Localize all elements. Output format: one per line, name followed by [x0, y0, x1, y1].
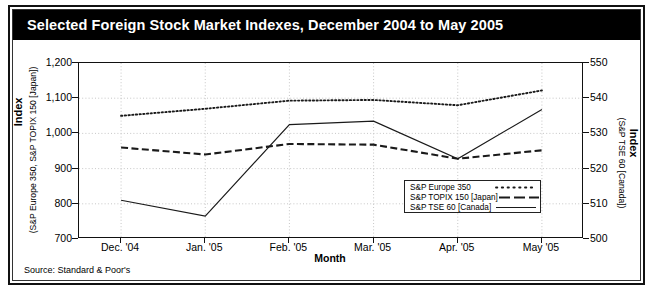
legend-item-label: S&P Europe 350	[410, 183, 495, 192]
legend-item-line-swatch	[495, 183, 536, 192]
legend-item: S&P TOPIX 150 [Japan]	[410, 193, 536, 202]
y-axis-right-tick-label: 510	[590, 197, 608, 209]
chart-legend: S&P Europe 350S&P TOPIX 150 [Japan]S&P T…	[404, 180, 541, 213]
chart-figure: Selected Foreign Stock Market Indexes, D…	[0, 0, 653, 291]
y-axis-right-title: Index	[628, 129, 640, 158]
y-axis-left-tick-mark	[72, 238, 78, 239]
legend-item-label: S&P TSE 60 [Canada]	[410, 203, 495, 212]
y-axis-left-tick-label: 1,100	[46, 91, 72, 103]
y-axis-right-tick-label: 500	[590, 232, 608, 244]
y-axis-right-tick-label: 550	[590, 56, 608, 68]
y-axis-left-subtitle: (S&P Europe 350, S&P TOPIX 150 [Japan])	[28, 67, 38, 234]
y-axis-right-tick-label: 520	[590, 162, 608, 174]
legend-item-line-swatch	[498, 193, 536, 202]
y-axis-left-tick-label: 1,000	[46, 126, 72, 138]
y-axis-right-subtitle: (S&P TSE 60 [Canada])	[617, 118, 627, 209]
y-axis-left-tick-label: 700	[54, 232, 72, 244]
y-axis-left-tick-label: 800	[54, 197, 72, 209]
legend-item: S&P Europe 350	[410, 183, 536, 192]
source-note: Source: Standard & Poor's	[24, 265, 130, 275]
y-axis-left-title: Index	[12, 98, 24, 127]
y-axis-right-tick-label: 540	[590, 91, 608, 103]
legend-item-label: S&P TOPIX 150 [Japan]	[410, 193, 498, 202]
chart-title-bar: Selected Foreign Stock Market Indexes, D…	[13, 10, 640, 40]
chart-title: Selected Foreign Stock Market Indexes, D…	[27, 17, 503, 33]
x-axis-title: Month	[314, 252, 346, 264]
y-axis-left-tick-label: 1,200	[46, 56, 72, 68]
y-axis-right-tick-label: 530	[590, 126, 608, 138]
legend-item-line-swatch	[495, 203, 536, 212]
legend-item: S&P TSE 60 [Canada]	[410, 203, 536, 212]
y-axis-left-tick-label: 900	[54, 162, 72, 174]
